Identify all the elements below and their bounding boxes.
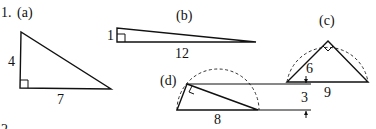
right-angle-marker-c bbox=[323, 46, 333, 51]
side-label-c-leg: 6 bbox=[306, 61, 313, 76]
right-angle-marker-b bbox=[117, 34, 125, 42]
right-angle-marker-d bbox=[189, 86, 194, 94]
next-problem-number: 2. bbox=[1, 122, 12, 129]
arrowhead-bottom-icon bbox=[304, 111, 308, 115]
semicircle-c bbox=[287, 47, 368, 82]
side-label-a-vertical: 4 bbox=[8, 54, 15, 69]
side-label-c-hypotenuse: 9 bbox=[324, 85, 331, 100]
side-label-b-horizontal: 12 bbox=[175, 46, 189, 61]
side-label-b-vertical: 1 bbox=[107, 28, 114, 43]
figure-c-label: (c) bbox=[319, 13, 335, 29]
figure-b-label: (b) bbox=[176, 8, 193, 24]
side-label-a-horizontal: 7 bbox=[57, 92, 64, 107]
figure-d: (d) 3 8 bbox=[160, 69, 311, 127]
side-label-d-height: 3 bbox=[301, 90, 308, 105]
figure-a-label: (a) bbox=[17, 5, 33, 21]
triangle-a bbox=[20, 32, 111, 89]
figure-b: (b) 1 12 bbox=[107, 8, 256, 61]
semicircle-d bbox=[177, 69, 259, 110]
problem-number: 1. bbox=[1, 5, 12, 20]
figure-a: (a) 4 7 bbox=[8, 5, 111, 107]
geometry-figure: 1. (a) 4 7 (b) 1 12 (c) 6 9 (d) 3 bbox=[0, 0, 376, 129]
figure-c: (c) 6 9 bbox=[287, 13, 368, 100]
triangle-d bbox=[177, 84, 258, 110]
right-angle-marker-a bbox=[20, 80, 28, 88]
figure-d-label: (d) bbox=[160, 73, 177, 89]
triangle-b bbox=[117, 28, 256, 42]
side-label-d-hypotenuse: 8 bbox=[214, 112, 221, 127]
